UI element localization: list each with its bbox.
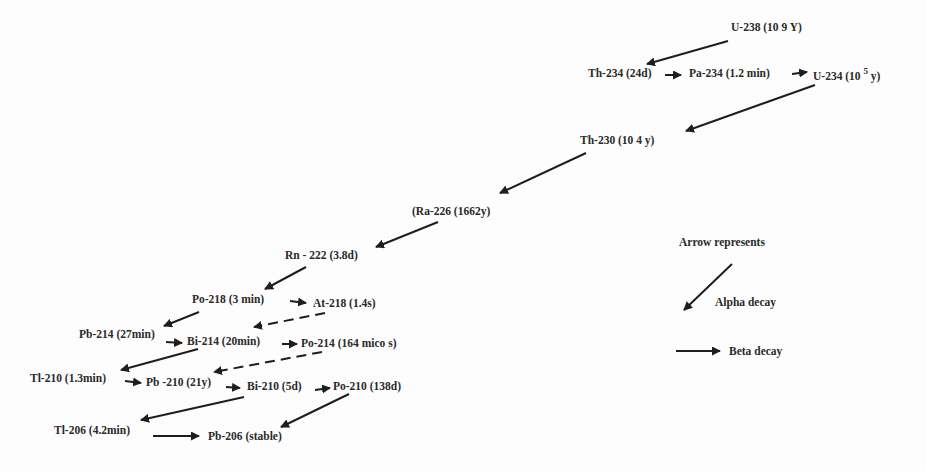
- alpha-arrow-rn222-po218: [265, 267, 306, 289]
- alpha-arrow-u238-th234: [647, 41, 728, 64]
- node-ra226: (Ra-226 (1662y): [412, 206, 490, 218]
- alpha-arrow-po210-pb206: [281, 394, 349, 427]
- legend-beta-label: Beta decay: [729, 346, 782, 358]
- beta-arrow-pa234-u234: [792, 72, 807, 74]
- node-u234: U-234 (10 5 y): [813, 67, 880, 83]
- alpha-arrow-u234-th230: [686, 85, 815, 131]
- node-po214: Po-214 (164 mico s): [301, 338, 397, 350]
- node-bi210: Bi-210 (5d): [247, 381, 302, 393]
- legend-alpha-label: Alpha decay: [715, 297, 776, 309]
- alpha-arrow-at218-bi214: [254, 313, 325, 327]
- node-u234-unit: y): [871, 70, 881, 82]
- alpha-arrow-po218-pb214: [164, 312, 199, 326]
- alpha-arrow-bi214-tl210: [121, 349, 198, 370]
- node-po218: Po-218 (3 min): [192, 294, 264, 306]
- node-pa234: Pa-234 (1.2 min): [689, 68, 770, 80]
- beta-arrow-tl210-pb210: [125, 381, 141, 383]
- legend-title: Arrow represents: [679, 237, 765, 249]
- node-th230: Th-230 (10 4 y): [580, 135, 654, 147]
- node-th234: Th-234 (24d): [588, 68, 652, 80]
- beta-arrow-po218-at218: [290, 301, 306, 303]
- node-pb206: Pb-206 (stable): [208, 431, 282, 443]
- node-pb214: Pb-214 (27min): [79, 329, 155, 341]
- node-u234-exponent: 5: [863, 66, 868, 76]
- node-tl210: Tl-210 (1.3min): [30, 373, 106, 385]
- node-rn222: Rn - 222 (3.8d): [285, 250, 358, 262]
- node-tl206: Tl-206 (4.2min): [54, 425, 130, 437]
- node-u234-base: U-234 (10: [813, 70, 861, 82]
- node-po210: Po-210 (138d): [333, 381, 401, 393]
- decay-arrows: [0, 0, 926, 471]
- alpha-arrow-ra226-rn222: [376, 222, 438, 247]
- decay-series-diagram: U-238 (10 9 Y) Th-234 (24d) Pa-234 (1.2 …: [0, 0, 926, 471]
- alpha-arrow-bi210-tl206: [141, 397, 244, 420]
- node-u238: U-238 (10 9 Y): [731, 22, 802, 34]
- node-bi214: Bi-214 (20min): [187, 336, 260, 348]
- beta-arrow-pb210-bi210: [226, 387, 240, 388]
- node-at218: At-218 (1.4s): [313, 298, 376, 310]
- alpha-arrow-po214-pb210: [214, 352, 322, 372]
- beta-arrow-bi210-po210: [315, 388, 330, 390]
- alpha-arrow-th230-ra226: [500, 153, 586, 193]
- node-pb210: Pb -210 (21y): [146, 377, 211, 389]
- beta-arrow-pb214-bi214: [166, 342, 182, 343]
